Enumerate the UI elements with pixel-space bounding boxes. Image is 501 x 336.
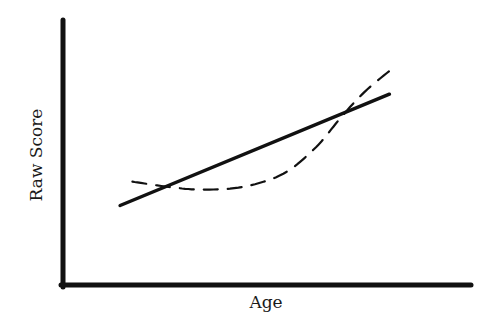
solid-trend-line bbox=[120, 94, 389, 205]
dashed-trend-line bbox=[132, 68, 393, 190]
x-axis-label: Age bbox=[248, 292, 282, 312]
y-axis-label: Raw Score bbox=[26, 109, 46, 202]
chart: Age Raw Score bbox=[0, 0, 501, 336]
